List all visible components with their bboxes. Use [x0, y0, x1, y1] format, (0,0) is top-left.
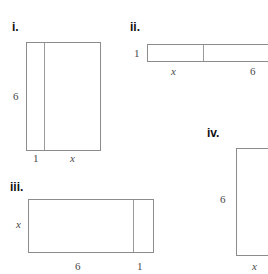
figure-ii-roman-label: ii. [130, 21, 140, 33]
figure-ii-vertical-divider [203, 45, 204, 61]
figure-i-right-segment-label: x [70, 153, 75, 164]
figure-ii-right-segment-label: 6 [250, 66, 256, 77]
figure-i-roman-label: i. [12, 21, 19, 33]
figure-ii-height-label: 1 [134, 48, 140, 59]
figure-iv-rectangle [236, 148, 268, 256]
figure-iii-rectangle [28, 199, 154, 253]
figure-iv-height-label: 6 [220, 194, 226, 205]
figure-iii-vertical-divider [133, 200, 134, 252]
figure-iv-roman-label: iv. [207, 127, 219, 139]
figure-iii-roman-label: iii. [10, 181, 23, 193]
figure-i-left-segment-label: 1 [33, 153, 39, 164]
figure-i-vertical-divider [44, 43, 45, 150]
figure-i-height-label: 6 [13, 91, 19, 102]
figure-ii-left-segment-label: x [171, 66, 176, 77]
figure-iii-height-label: x [16, 219, 21, 230]
figure-iii-right-segment-label: 1 [137, 261, 143, 272]
figure-iii-left-segment-label: 6 [75, 261, 81, 272]
figure-ii-rectangle [147, 44, 268, 62]
figure-i-rectangle [26, 42, 101, 151]
figure-iv-bottom-label: x [252, 261, 257, 272]
